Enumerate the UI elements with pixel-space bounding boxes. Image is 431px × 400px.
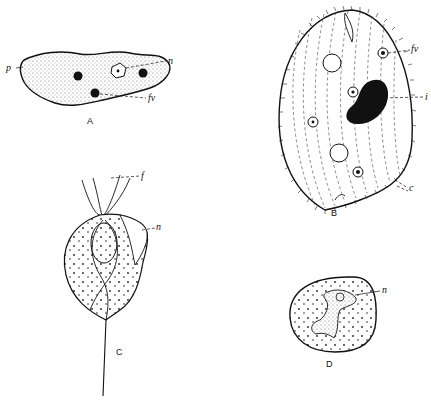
- caption-b: B: [331, 209, 337, 218]
- protozoa-illustration: [0, 0, 431, 400]
- caption-d: D: [326, 360, 333, 369]
- label-nucleus: n: [168, 56, 173, 66]
- label-pseudopod: p: [6, 63, 11, 73]
- panel-c-trichomonas: [64, 175, 155, 396]
- panel-b-paramecium: [278, 6, 424, 214]
- label-nucleus-d: n: [382, 285, 387, 295]
- label-cilia: c: [409, 183, 413, 193]
- label-food-vacuole-b: fv: [411, 44, 418, 54]
- caption-c: C: [116, 348, 123, 357]
- panel-a-amoeba: [16, 52, 170, 105]
- label-macronucleus: i: [425, 92, 428, 102]
- label-nucleus-c: n: [156, 222, 161, 232]
- caption-a: A: [87, 117, 93, 126]
- label-flagella: f: [141, 171, 144, 181]
- label-food-vacuole: fv: [148, 93, 155, 103]
- panel-d-cyst: [290, 277, 380, 352]
